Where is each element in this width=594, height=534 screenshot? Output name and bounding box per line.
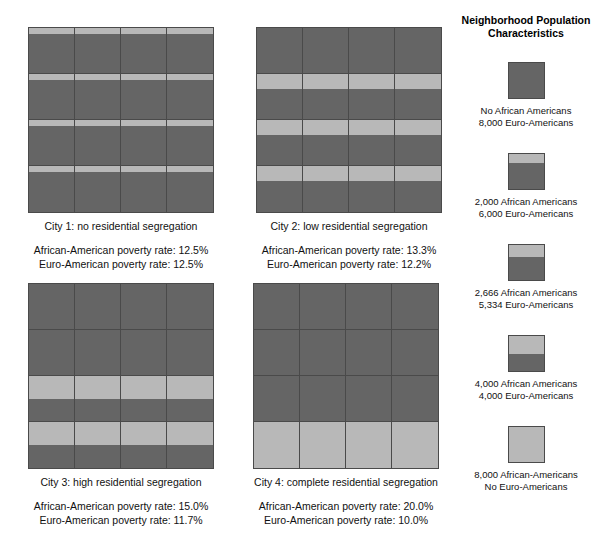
african-american-share-band [254, 422, 299, 468]
neighborhood-cell [254, 422, 300, 468]
neighborhood-cell [257, 120, 303, 166]
neighborhood-cell [257, 166, 303, 212]
legend-swatch-wrap [458, 153, 594, 190]
african-american-share-band [392, 422, 438, 468]
neighborhood-cell [167, 120, 213, 166]
neighborhood-cell [121, 74, 167, 120]
legend-item: 2,666 African Americans5,334 Euro-Americ… [458, 244, 594, 311]
city-panel-2: City 2: low residential segregation Afri… [256, 27, 442, 271]
neighborhood-cell [300, 330, 346, 376]
neighborhood-cell [121, 120, 167, 166]
neighborhood-cell [257, 28, 303, 74]
african-american-share-band [121, 166, 166, 172]
legend-item: 2,000 African Americans6,000 Euro-Americ… [458, 153, 594, 220]
african-american-share-band [167, 422, 213, 445]
legend-swatch [508, 62, 545, 99]
city-caption-3: City 3: high residential segregation [28, 476, 214, 489]
neighborhood-cell [395, 28, 441, 74]
neighborhood-cell [346, 422, 392, 468]
city-caption-2: City 2: low residential segregation [256, 220, 442, 233]
neighborhood-cell [75, 120, 121, 166]
african-american-share-band [509, 427, 544, 462]
neighborhood-cell [167, 166, 213, 212]
african-american-share-band [167, 74, 213, 80]
neighborhood-cell [29, 166, 75, 212]
african-american-share-band [121, 74, 166, 80]
african-american-share-band [29, 422, 74, 445]
neighborhood-cell [349, 74, 395, 120]
african-american-share-band [75, 120, 120, 126]
african-american-share-band [121, 376, 166, 399]
neighborhood-cell [75, 284, 121, 330]
legend-caption-line-2: No Euro-Americans [458, 481, 594, 493]
african-american-share-band [75, 28, 120, 34]
african-american-share-band [29, 120, 74, 126]
neighborhood-cell [392, 376, 438, 422]
legend-caption-line-1: 2,666 African Americans [458, 287, 594, 299]
neighborhood-cell [75, 74, 121, 120]
neighborhood-cell [29, 376, 75, 422]
african-american-share-band [509, 154, 544, 163]
city-rates-4: African-American poverty rate: 20.0% Eur… [253, 499, 439, 527]
neighborhood-cell [392, 284, 438, 330]
neighborhood-cell [303, 74, 349, 120]
city-grid-2 [256, 27, 442, 213]
neighborhood-cell [167, 422, 213, 468]
legend-item: 8,000 African-AmericansNo Euro-Americans [458, 426, 594, 493]
neighborhood-cell [349, 120, 395, 166]
euro-american-rate-4: Euro-American poverty rate: 10.0% [253, 513, 439, 527]
african-american-share-band [257, 166, 302, 181]
neighborhood-cell [349, 28, 395, 74]
city-panel-4: City 4: complete residential segregation… [253, 283, 439, 527]
neighborhood-cell [346, 330, 392, 376]
legend-swatch-wrap [458, 244, 594, 281]
legend-swatch-wrap [458, 62, 594, 99]
african-american-share-band [395, 74, 441, 89]
city-caption-1: City 1: no residential segregation [28, 220, 214, 233]
neighborhood-cell [300, 376, 346, 422]
neighborhood-cell [29, 330, 75, 376]
legend-caption: 2,666 African Americans5,334 Euro-Americ… [458, 287, 594, 311]
african-american-rate-1: African-American poverty rate: 12.5% [28, 243, 214, 257]
neighborhood-cell [29, 120, 75, 166]
neighborhood-cell [167, 28, 213, 74]
neighborhood-cell [392, 422, 438, 468]
legend-swatch [508, 153, 545, 190]
city-rates-2: African-American poverty rate: 13.3% Eur… [256, 243, 442, 271]
legend-caption-line-1: 4,000 African Americans [458, 378, 594, 390]
african-american-rate-4: African-American poverty rate: 20.0% [253, 499, 439, 513]
african-american-share-band [75, 74, 120, 80]
legend-caption-line-1: No African Americans [458, 105, 594, 117]
neighborhood-cell [121, 284, 167, 330]
neighborhood-cell [167, 284, 213, 330]
african-american-share-band [349, 120, 394, 135]
legend-caption: 4,000 African Americans4,000 Euro-Americ… [458, 378, 594, 402]
african-american-share-band [303, 74, 348, 89]
neighborhood-cell [346, 376, 392, 422]
city-grid-3 [28, 283, 214, 469]
neighborhood-cell [121, 422, 167, 468]
neighborhood-cell [121, 376, 167, 422]
neighborhood-cell [121, 166, 167, 212]
african-american-share-band [75, 422, 120, 445]
legend-caption-line-1: 8,000 African-Americans [458, 469, 594, 481]
neighborhood-cell [395, 120, 441, 166]
city-rates-1: African-American poverty rate: 12.5% Eur… [28, 243, 214, 271]
african-american-share-band [509, 245, 544, 257]
neighborhood-cell [303, 28, 349, 74]
neighborhood-cell [395, 74, 441, 120]
neighborhood-cell [75, 166, 121, 212]
neighborhood-cell [349, 166, 395, 212]
african-american-share-band [257, 74, 302, 89]
african-american-share-band [349, 166, 394, 181]
euro-american-rate-2: Euro-American poverty rate: 12.2% [256, 257, 442, 271]
legend-item: No African Americans8,000 Euro-Americans [458, 62, 594, 129]
african-american-share-band [257, 120, 302, 135]
african-american-share-band [349, 74, 394, 89]
city-grid-1 [28, 27, 214, 213]
legend-caption: No African Americans8,000 Euro-Americans [458, 105, 594, 129]
legend-item: 4,000 African Americans4,000 Euro-Americ… [458, 335, 594, 402]
african-american-share-band [395, 120, 441, 135]
city-panel-3: City 3: high residential segregation Afr… [28, 283, 214, 527]
neighborhood-cell [121, 330, 167, 376]
